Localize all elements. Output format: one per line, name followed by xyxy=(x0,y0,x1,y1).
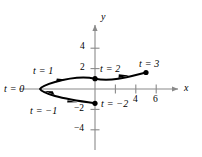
x-tick-label-4: 4 xyxy=(133,95,138,105)
y-axis-label: y xyxy=(101,12,105,22)
annotation-t-equals-minus-2: t = −2 xyxy=(101,99,128,109)
point-marker-t2 xyxy=(92,76,97,81)
y-tick-label-4: 4 xyxy=(80,42,85,52)
parametric-curve-figure: x y 4 2 −2 −4 4 6 t = 0 t = 1 t = 2 t = … xyxy=(0,0,202,157)
annotation-t-equals-2: t = 2 xyxy=(100,64,121,74)
point-marker-t-minus-2 xyxy=(92,101,97,106)
annotation-t-equals-3: t = 3 xyxy=(139,59,160,69)
plot-canvas xyxy=(0,0,202,157)
annotation-t-equals-1: t = 1 xyxy=(33,66,54,76)
point-marker-t3 xyxy=(143,70,148,75)
annotation-t-equals-minus-1: t = −1 xyxy=(30,106,57,116)
y-tick-label-minus-4: −4 xyxy=(74,124,84,134)
x-tick-label-6: 6 xyxy=(153,95,158,105)
x-axis-label: x xyxy=(184,83,188,93)
annotation-t-equals-0: t = 0 xyxy=(4,84,25,94)
y-tick-label-2: 2 xyxy=(80,63,85,73)
y-tick-label-minus-2: −2 xyxy=(74,104,84,114)
